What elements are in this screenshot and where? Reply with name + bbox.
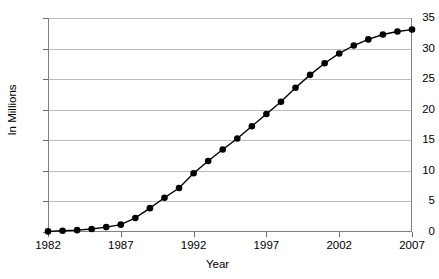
series-polyline <box>48 30 412 232</box>
data-point-marker <box>394 28 401 35</box>
data-point-marker <box>278 98 285 105</box>
data-point-marker <box>350 42 357 49</box>
data-point-marker <box>161 194 168 201</box>
data-point-marker <box>147 205 154 212</box>
data-point-marker <box>365 36 372 43</box>
data-point-marker <box>219 146 226 153</box>
data-point-marker <box>118 221 125 228</box>
data-point-marker <box>103 224 110 231</box>
data-point-marker <box>74 227 81 234</box>
data-point-marker <box>234 135 241 142</box>
data-point-marker <box>176 185 183 192</box>
data-point-marker <box>88 226 95 233</box>
data-point-marker <box>132 215 139 222</box>
data-point-marker <box>336 50 343 57</box>
data-point-marker <box>380 31 387 38</box>
data-point-marker <box>307 72 314 79</box>
x-axis-title: Year <box>0 258 435 270</box>
data-point-marker <box>190 170 197 177</box>
data-point-marker <box>249 123 256 130</box>
data-point-marker <box>292 84 299 91</box>
data-point-marker <box>59 227 66 234</box>
data-point-marker <box>409 26 416 33</box>
data-point-marker <box>45 228 52 235</box>
data-point-marker <box>205 158 212 165</box>
y-axis-title: In Millions <box>6 70 18 150</box>
data-point-marker <box>321 60 328 67</box>
data-point-marker <box>263 111 270 118</box>
